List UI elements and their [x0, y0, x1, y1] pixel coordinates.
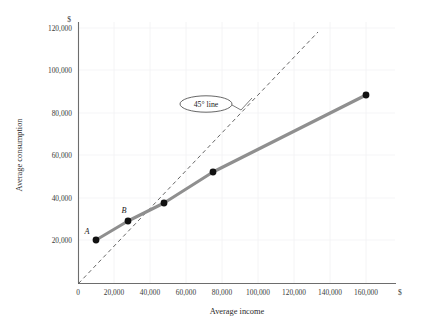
- y-tick-label-80000: 80,000: [52, 109, 73, 118]
- x-tick-label-60000: 60,000: [176, 288, 197, 297]
- data-point-label-a: A: [83, 227, 90, 236]
- data-point-label-b: B: [121, 206, 126, 215]
- y-tick-label-100000: 100,000: [48, 66, 72, 75]
- chart-container: A B 45° line $ 20,000 40,000 60,000 80,0…: [0, 0, 425, 326]
- x-axis-unit-symbol: $: [398, 288, 402, 297]
- x-tick-label-100000: 100,000: [246, 288, 270, 297]
- data-point-5: [363, 92, 370, 99]
- consumption-function-chart: A B 45° line $ 20,000 40,000 60,000 80,0…: [0, 0, 425, 326]
- x-tick-label-160000: 160,000: [354, 288, 378, 297]
- annotation-45-degree-line: 45° line: [180, 96, 252, 112]
- y-tick-label-120000: 120,000: [48, 24, 72, 33]
- data-point-3: [161, 200, 168, 207]
- annotation-45-degree-label: 45° line: [194, 100, 219, 109]
- x-tick-label-0: 0: [76, 288, 80, 297]
- consumption-function-line: [96, 95, 366, 240]
- x-tick-label-140000: 140,000: [318, 288, 342, 297]
- data-point-b: [125, 218, 132, 225]
- y-tick-label-60000: 60,000: [52, 151, 73, 160]
- data-point-4: [210, 169, 217, 176]
- y-axis-unit-symbol: $: [67, 15, 71, 24]
- axis-lines: [78, 22, 396, 284]
- x-axis-tick-labels: 0 20,000 40,000 60,000 80,000 100,000 12…: [76, 288, 378, 297]
- x-tick-label-80000: 80,000: [212, 288, 233, 297]
- y-axis-title: Average consumption: [15, 118, 24, 192]
- x-axis-title: Average income: [210, 307, 265, 316]
- y-tick-label-20000: 20,000: [52, 236, 73, 245]
- grid-lines: [78, 22, 395, 283]
- data-point-a: [93, 237, 100, 244]
- y-tick-label-40000: 40,000: [52, 194, 73, 203]
- x-tick-label-20000: 20,000: [104, 288, 125, 297]
- x-tick-label-120000: 120,000: [282, 288, 306, 297]
- y-axis-tick-labels: 20,000 40,000 60,000 80,000 100,000 120,…: [48, 24, 72, 245]
- x-tick-label-40000: 40,000: [140, 288, 161, 297]
